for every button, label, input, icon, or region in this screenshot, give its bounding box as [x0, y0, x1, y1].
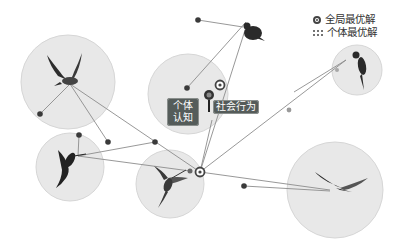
- cognitive-tag: 个体 认知: [167, 98, 199, 126]
- bullseye-icon: [313, 16, 321, 24]
- finch-icon: [244, 23, 266, 42]
- legend-global-best-label: 全局最优解: [325, 13, 375, 26]
- global-best-marker-secondary: [216, 81, 225, 90]
- global-best-marker: [196, 168, 205, 177]
- cognitive-tag-line1: 个体: [170, 100, 196, 112]
- neighborhood-circle: [287, 142, 383, 238]
- legend: 全局最优解 个体最优解: [313, 13, 377, 39]
- legend-global-best: 全局最优解: [313, 13, 377, 26]
- dot-grid-icon: [313, 29, 323, 37]
- cognitive-tag-line2: 认知: [170, 112, 196, 124]
- legend-individual-best: 个体最优解: [313, 26, 377, 39]
- neighborhood-circle: [36, 133, 104, 201]
- legend-individual-best-label: 个体最优解: [327, 26, 377, 39]
- social-tag: 社会行为: [213, 100, 259, 114]
